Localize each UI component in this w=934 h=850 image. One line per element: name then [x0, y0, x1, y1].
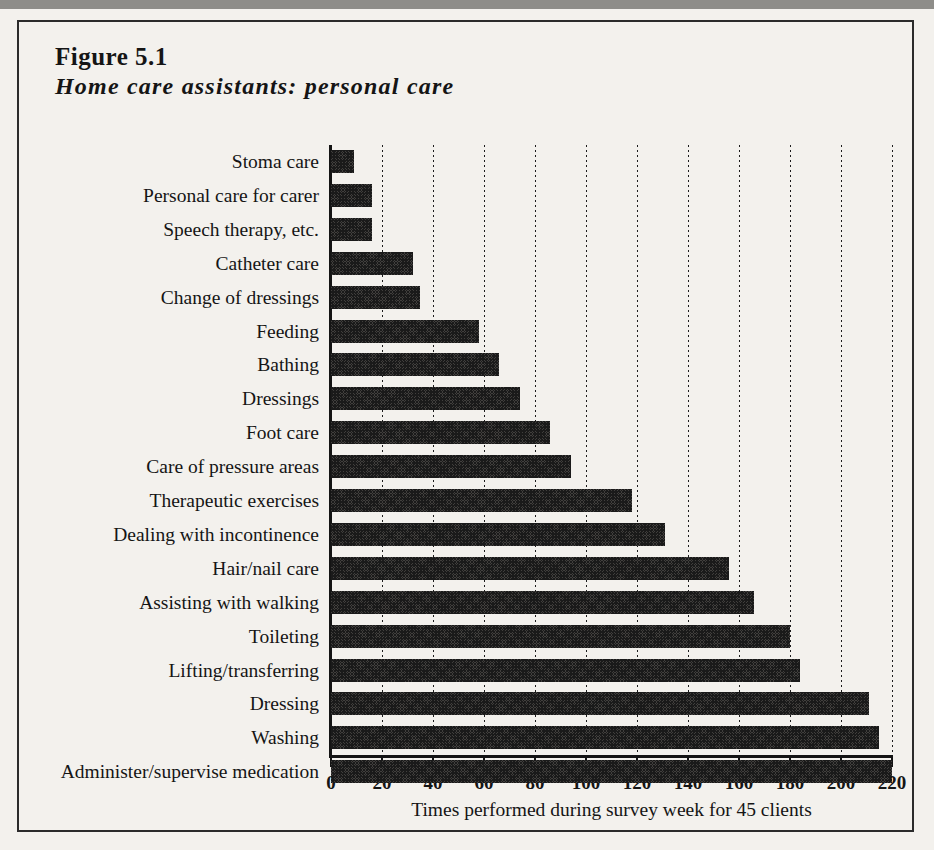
- bar: [331, 523, 665, 546]
- category-label: Therapeutic exercises: [150, 484, 319, 518]
- bar: [331, 421, 550, 444]
- bar: [331, 252, 413, 275]
- bar: [331, 286, 420, 309]
- x-axis-label: Times performed during survey week for 4…: [331, 799, 892, 821]
- category-label: Care of pressure areas: [146, 450, 319, 484]
- bar-row: Therapeutic exercises: [331, 484, 892, 518]
- bar: [331, 489, 632, 512]
- category-label: Toileting: [249, 620, 319, 654]
- category-label: Dressing: [250, 687, 319, 721]
- bar-row: Feeding: [331, 315, 892, 349]
- bar-row: Speech therapy, etc.: [331, 213, 892, 247]
- bar-row: Assisting with walking: [331, 586, 892, 620]
- bar: [331, 591, 754, 614]
- bar-row: Care of pressure areas: [331, 450, 892, 484]
- category-label: Change of dressings: [161, 281, 319, 315]
- category-label: Dressings: [242, 382, 319, 416]
- bar: [331, 150, 354, 173]
- category-label: Administer/supervise medication: [61, 755, 319, 789]
- category-label: Stoma care: [232, 145, 319, 179]
- figure-frame: Figure 5.1 Home care assistants: persona…: [17, 20, 914, 832]
- bar: [331, 659, 800, 682]
- bar: [331, 387, 520, 410]
- category-label: Bathing: [257, 348, 319, 382]
- bar: [331, 320, 479, 343]
- bar-row: Stoma care: [331, 145, 892, 179]
- bar: [331, 218, 372, 241]
- category-label: Foot care: [246, 416, 319, 450]
- bar-row: Personal care for carer: [331, 179, 892, 213]
- bar: [331, 353, 499, 376]
- gridline-220: [892, 145, 893, 755]
- bar-row: Lifting/transferring: [331, 654, 892, 688]
- bar: [331, 726, 879, 749]
- bar-row: Bathing: [331, 348, 892, 382]
- category-label: Catheter care: [216, 247, 319, 281]
- bar: [331, 557, 729, 580]
- bar-row: Dressings: [331, 382, 892, 416]
- bar: [331, 692, 869, 715]
- bar-row: Catheter care: [331, 247, 892, 281]
- bar-row: Foot care: [331, 416, 892, 450]
- bar-row: Dealing with incontinence: [331, 518, 892, 552]
- bar-row: Hair/nail care: [331, 552, 892, 586]
- category-label: Washing: [251, 721, 319, 755]
- bar-row: Change of dressings: [331, 281, 892, 315]
- scan-top-band: [0, 0, 934, 9]
- bar-row: Administer/supervise medication: [331, 755, 892, 789]
- category-label: Dealing with incontinence: [113, 518, 319, 552]
- category-label: Feeding: [256, 315, 319, 349]
- page-background: Figure 5.1 Home care assistants: persona…: [0, 9, 934, 850]
- bar-row: Toileting: [331, 620, 892, 654]
- category-label: Speech therapy, etc.: [163, 213, 319, 247]
- bar: [331, 455, 571, 478]
- bar: [331, 184, 372, 207]
- bar-chart: 020406080100120140160180200220 Stoma car…: [19, 22, 916, 834]
- bar: [331, 760, 892, 783]
- plot-area: 020406080100120140160180200220 Stoma car…: [331, 145, 892, 755]
- bar-row: Dressing: [331, 687, 892, 721]
- category-label: Personal care for carer: [143, 179, 319, 213]
- category-label: Hair/nail care: [212, 552, 319, 586]
- category-label: Lifting/transferring: [168, 654, 319, 688]
- bar: [331, 625, 790, 648]
- bar-row: Washing: [331, 721, 892, 755]
- category-label: Assisting with walking: [139, 586, 319, 620]
